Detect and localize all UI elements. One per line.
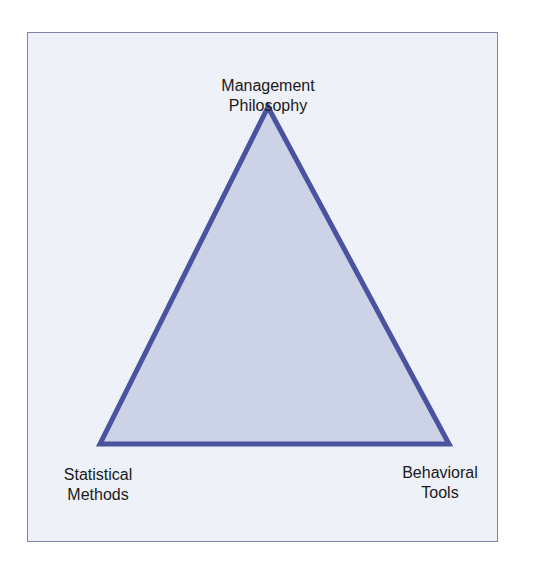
vertex-label-management-philosophy: Management Philosophy <box>178 76 358 116</box>
label-line: Management <box>178 76 358 96</box>
label-line: Tools <box>380 483 500 503</box>
vertex-label-behavioral-tools: Behavioral Tools <box>380 463 500 503</box>
label-line: Statistical <box>38 465 158 485</box>
vertex-label-statistical-methods: Statistical Methods <box>38 465 158 505</box>
triangle <box>100 107 449 444</box>
label-line: Methods <box>38 485 158 505</box>
label-line: Philosophy <box>178 96 358 116</box>
label-line: Behavioral <box>380 463 500 483</box>
